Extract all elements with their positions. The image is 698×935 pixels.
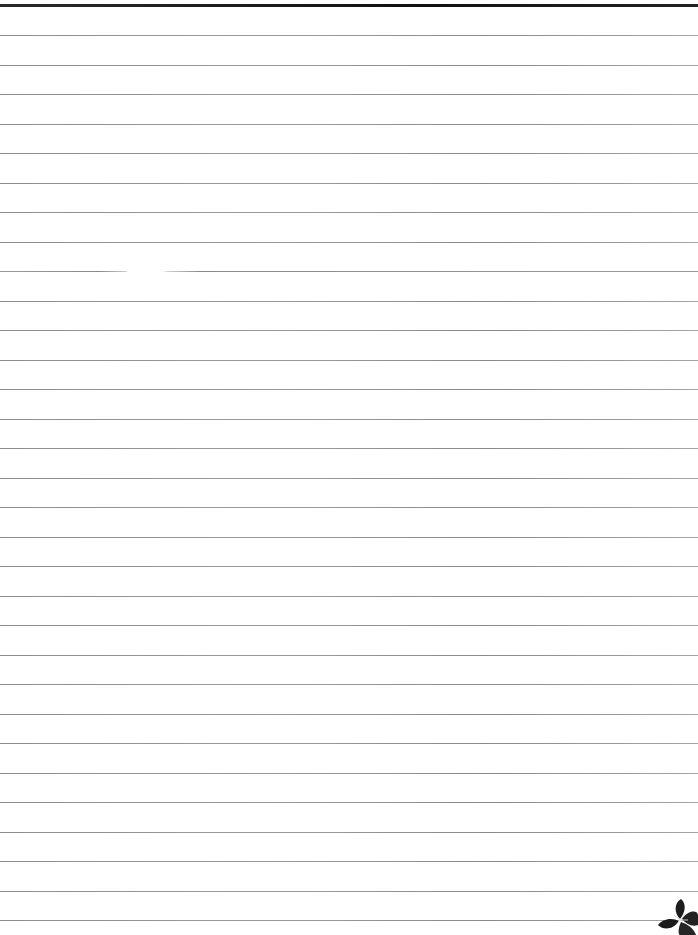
ruled-line bbox=[0, 183, 698, 184]
ruled-line bbox=[0, 566, 698, 567]
ruled-line bbox=[0, 891, 698, 892]
ruled-line bbox=[0, 389, 698, 390]
ruled-line bbox=[0, 714, 698, 715]
ruled-line bbox=[0, 65, 698, 66]
ruled-line bbox=[0, 153, 698, 154]
ruled-line bbox=[0, 802, 698, 803]
ruled-line bbox=[0, 478, 698, 479]
ruled-line bbox=[0, 94, 698, 95]
ruled-line bbox=[0, 596, 698, 597]
ruled-line bbox=[0, 419, 698, 420]
lined-paper-page bbox=[0, 0, 698, 935]
ruled-line bbox=[0, 861, 698, 862]
ruled-line bbox=[0, 448, 698, 449]
ruled-line bbox=[0, 537, 698, 538]
flower-icon bbox=[652, 895, 698, 935]
ruled-line bbox=[0, 212, 698, 213]
ruled-line bbox=[0, 832, 698, 833]
ruled-line bbox=[0, 920, 698, 921]
ruled-line bbox=[0, 271, 698, 272]
ruled-line bbox=[0, 684, 698, 685]
ruled-line bbox=[0, 360, 698, 361]
ruled-line bbox=[0, 301, 698, 302]
ruled-line bbox=[0, 330, 698, 331]
ruled-line bbox=[0, 655, 698, 656]
ruled-line bbox=[0, 507, 698, 508]
ruled-line bbox=[0, 743, 698, 744]
ruled-line bbox=[0, 124, 698, 125]
ruled-line bbox=[0, 625, 698, 626]
ruled-line bbox=[0, 242, 698, 243]
ruled-line bbox=[0, 773, 698, 774]
top-header-rule bbox=[0, 4, 698, 7]
ruled-line bbox=[0, 35, 698, 36]
